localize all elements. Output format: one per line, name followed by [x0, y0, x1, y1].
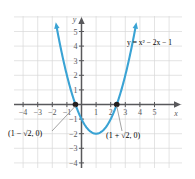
svg-text:4: 4: [138, 108, 142, 117]
svg-text:3: 3: [74, 57, 78, 66]
svg-text:1: 1: [94, 108, 98, 117]
svg-text:−4: −4: [19, 108, 28, 117]
svg-text:−1: −1: [69, 115, 78, 124]
svg-text:−2: −2: [69, 130, 78, 139]
svg-text:4: 4: [74, 42, 78, 51]
svg-text:−3: −3: [69, 144, 78, 153]
svg-text:3: 3: [123, 108, 127, 117]
svg-text:−2: −2: [48, 108, 57, 117]
svg-text:−4: −4: [69, 159, 78, 168]
svg-text:−3: −3: [33, 108, 42, 117]
svg-text:2: 2: [74, 71, 78, 80]
svg-text:1: 1: [74, 86, 78, 95]
svg-text:y: y: [72, 15, 77, 24]
parabola-graph: −4−3−2−11234554321−1−2−3−4xy: [0, 0, 195, 179]
grid-lines: [14, 16, 182, 168]
svg-text:5: 5: [74, 28, 78, 37]
axes: [14, 17, 181, 168]
figure-container: −4−3−2−11234554321−1−2−3−4xy y = x² − 2x…: [0, 0, 195, 179]
svg-text:5: 5: [153, 108, 157, 117]
svg-text:x: x: [173, 109, 178, 118]
